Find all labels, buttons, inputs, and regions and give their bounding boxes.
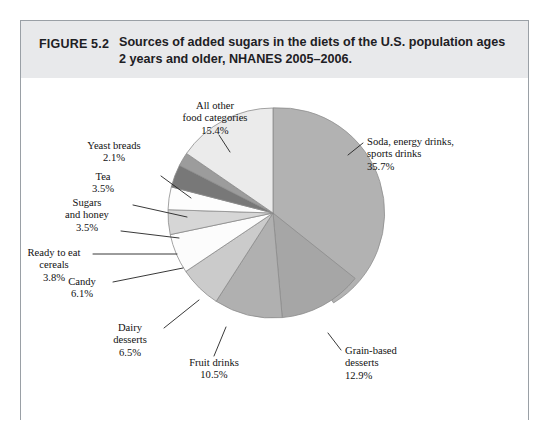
label-fruit-drinks-name: Fruit drinks: [189, 357, 239, 368]
label-candy: Candy 6.1%: [53, 276, 111, 301]
label-fruit-drinks: Fruit drinks 10.5%: [165, 357, 263, 382]
leader-line-grain-desserts: [328, 333, 341, 350]
figure-title-line-1: Sources of added sugars in the diets of …: [119, 35, 505, 49]
label-soda-percent: 35.7%: [367, 161, 394, 172]
figure-title-line-2: 2 years and older, NHANES 2005–2006.: [119, 52, 352, 66]
figure-header-band: FIGURE 5.2 Sources of added sugars in th…: [21, 21, 528, 78]
label-tea-name: Tea: [95, 171, 110, 182]
label-all-other-line-2: food categories: [182, 112, 247, 123]
label-candy-percent: 6.1%: [71, 288, 93, 299]
label-soda-line-1: Soda, energy drinks,: [367, 136, 454, 147]
leader-line-candy: [113, 268, 183, 282]
figure-number-label: FIGURE 5.2: [39, 37, 109, 51]
label-dairy-desserts: Dairy desserts 6.5%: [97, 322, 163, 359]
pie-chart-area: All other food categories 15.4% Yeast br…: [21, 78, 528, 420]
label-dairy-percent: 6.5%: [119, 347, 141, 358]
label-candy-name: Candy: [68, 276, 96, 287]
figure-frame: FIGURE 5.2 Sources of added sugars in th…: [20, 20, 529, 420]
label-grain-based-desserts: Grain-based desserts 12.9%: [345, 345, 437, 382]
label-sugars-line-1: Sugars: [73, 197, 102, 208]
label-grain-percent: 12.9%: [345, 370, 372, 381]
label-soda-line-2: sports drinks: [367, 148, 421, 159]
label-fruit-drinks-percent: 10.5%: [200, 369, 227, 380]
leader-line-fruit-drinks: [214, 327, 226, 356]
label-all-other-food-categories: All other food categories 15.4%: [147, 100, 283, 137]
label-grain-line-1: Grain-based: [345, 345, 397, 356]
label-cereals-line-2: cereals: [39, 259, 68, 270]
label-dairy-line-1: Dairy: [118, 322, 142, 333]
label-yeast-breads-percent: 2.1%: [103, 152, 125, 163]
label-tea-percent: 3.5%: [92, 183, 114, 194]
label-sugars-percent: 3.5%: [76, 222, 98, 233]
label-tea: Tea 3.5%: [75, 171, 131, 196]
label-sugars-and-honey: Sugars and honey 3.5%: [55, 197, 119, 234]
label-sugars-line-2: and honey: [65, 209, 109, 220]
label-soda-energy-sports-drinks: Soda, energy drinks, sports drinks 35.7%: [367, 136, 507, 173]
label-all-other-percent: 15.4%: [201, 125, 228, 136]
leader-line-dairy: [164, 300, 199, 328]
figure-title: Sources of added sugars in the diets of …: [119, 34, 514, 67]
label-grain-line-2: desserts: [345, 357, 379, 368]
label-dairy-line-2: desserts: [113, 334, 147, 345]
label-all-other-line-1: All other: [196, 100, 234, 111]
label-cereals-line-1: Ready to eat: [28, 247, 81, 258]
label-yeast-breads-name: Yeast breads: [87, 140, 140, 151]
label-yeast-breads: Yeast breads 2.1%: [67, 140, 161, 165]
